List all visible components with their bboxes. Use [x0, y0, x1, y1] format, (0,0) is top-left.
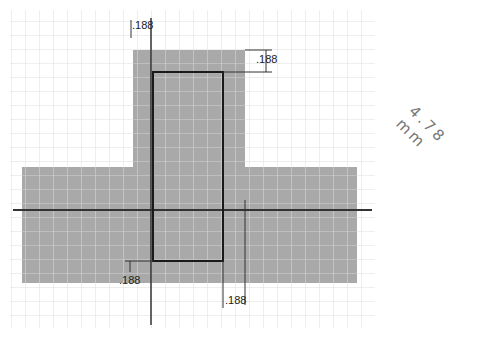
t-shape-offset-diagram	[0, 0, 486, 341]
dimension-bottom-left: .188	[119, 274, 140, 286]
dimension-top-right: .188	[256, 53, 277, 65]
dimension-top-left: .188	[132, 19, 153, 31]
dimension-bottom-right: .188	[225, 294, 246, 306]
